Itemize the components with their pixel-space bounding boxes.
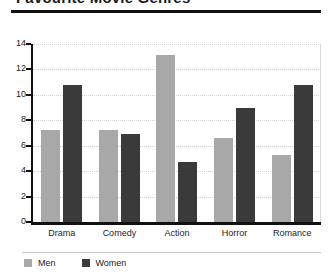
chart-title-strip: Favourite Movie Genres	[0, 0, 328, 7]
y-axis-tick-label: 0	[3, 216, 26, 226]
legend-item-men[interactable]: Men	[24, 258, 56, 268]
x-axis-label-romance: Romance	[263, 228, 321, 238]
x-axis-label-drama: Drama	[33, 228, 91, 238]
y-axis-tick-label: 8	[3, 114, 26, 124]
y-axis-tick	[26, 170, 31, 172]
bar-action-men[interactable]	[156, 55, 175, 222]
y-axis-tick-label: 2	[3, 191, 26, 201]
y-axis-tick	[26, 196, 31, 198]
page-title: Favourite Movie Genres	[16, 0, 190, 6]
y-axis-tick-label: 14	[3, 38, 26, 48]
title-divider	[11, 10, 321, 13]
bar-group-drama	[33, 44, 91, 222]
bar-horror-women[interactable]	[236, 108, 255, 222]
bar-romance-women[interactable]	[294, 85, 313, 222]
bar-group-romance	[263, 44, 321, 222]
y-axis-tick	[26, 68, 31, 70]
legend-label: Women	[96, 258, 127, 268]
y-axis-tick	[26, 145, 31, 147]
bar-comedy-men[interactable]	[99, 130, 118, 222]
bar-drama-women[interactable]	[63, 85, 82, 222]
y-axis-tick	[26, 94, 31, 96]
y-axis-tick-label: 10	[3, 89, 26, 99]
x-axis-label-comedy: Comedy	[91, 228, 149, 238]
bar-group-horror	[206, 44, 264, 222]
legend-label: Men	[38, 258, 56, 268]
legend-swatch-icon	[82, 259, 90, 267]
y-axis-tick	[26, 119, 31, 121]
legend-divider	[22, 252, 321, 253]
y-axis-tick-label: 4	[3, 165, 26, 175]
bar-action-women[interactable]	[178, 162, 197, 222]
chart-legend: MenWomen	[24, 258, 126, 268]
x-axis-labels: DramaComedyActionHorrorRomance	[33, 228, 321, 238]
y-axis-tick-label: 6	[3, 140, 26, 150]
legend-swatch-icon	[24, 259, 32, 267]
x-axis	[31, 222, 321, 225]
y-axis-tick-label: 12	[3, 63, 26, 73]
y-axis-tick	[26, 43, 31, 45]
bar-groups	[33, 44, 321, 222]
bar-comedy-women[interactable]	[121, 134, 140, 222]
bar-group-action	[148, 44, 206, 222]
x-axis-label-action: Action	[148, 228, 206, 238]
legend-item-women[interactable]: Women	[82, 258, 127, 268]
x-axis-label-horror: Horror	[206, 228, 264, 238]
bar-drama-men[interactable]	[41, 130, 60, 222]
bar-group-comedy	[91, 44, 149, 222]
bar-horror-men[interactable]	[214, 138, 233, 222]
bar-romance-men[interactable]	[272, 155, 291, 222]
